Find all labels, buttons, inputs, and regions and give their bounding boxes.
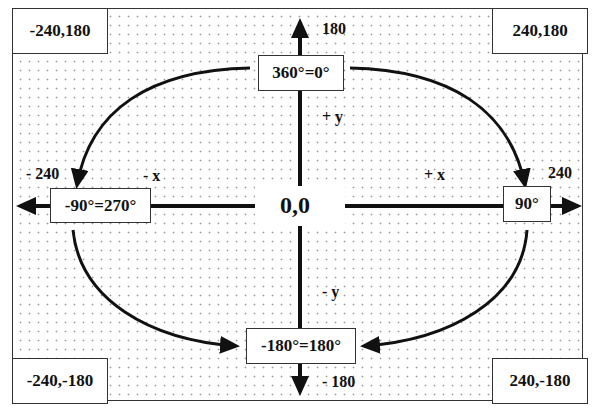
label-plus-y: + y xyxy=(322,108,343,126)
angle-box-bottom: -180°=180° xyxy=(246,328,356,364)
label-x-max: 240 xyxy=(548,164,572,182)
label-y-min: - 180 xyxy=(322,373,355,391)
angle-box-top: 360°=0° xyxy=(258,55,344,91)
label-minus-x: - x xyxy=(143,167,160,185)
arc-left-to-bottom xyxy=(73,230,236,346)
corner-bottom-left: -240,-180 xyxy=(12,358,108,404)
label-x-min: - 240 xyxy=(26,165,59,183)
corner-bottom-right: 240,-180 xyxy=(492,358,588,404)
arc-top-to-left xyxy=(77,68,250,185)
arc-right-to-bottom xyxy=(364,230,527,346)
label-y-max: 180 xyxy=(322,20,346,38)
angle-box-left: -90°=270° xyxy=(50,188,151,223)
corner-top-right: 240,180 xyxy=(492,8,588,54)
label-minus-y: - y xyxy=(322,283,339,301)
label-plus-x: + x xyxy=(424,166,445,184)
angle-box-right: 90° xyxy=(503,186,551,222)
origin-label: 0,0 xyxy=(280,192,310,219)
corner-top-left: -240,180 xyxy=(12,8,108,54)
